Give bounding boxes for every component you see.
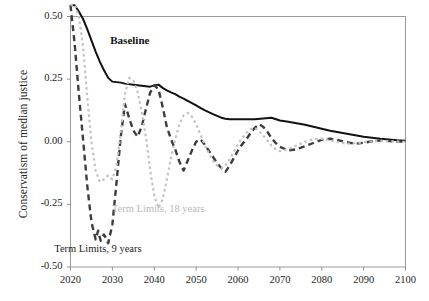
x-axis-tick-marks — [71, 267, 406, 271]
y-tick-label: -0.50 — [23, 261, 63, 272]
y-tick-label: 0.00 — [23, 136, 63, 147]
x-tick-label: 2100 — [381, 275, 429, 286]
y-axis-tick-marks — [67, 17, 71, 268]
annotation-baseline: Baseline — [110, 35, 149, 46]
annotation-term-limits-9: Term Limits, 9 years — [54, 244, 141, 255]
chart-figure: Conservatism of median justice 0.500.250… — [0, 0, 429, 301]
y-tick-label: 0.50 — [23, 11, 63, 22]
y-tick-label: 0.25 — [23, 73, 63, 84]
y-tick-label: -0.25 — [23, 198, 63, 209]
chart-canvas — [0, 0, 429, 301]
annotation-term-limits-18: Term Limits, 18 years — [112, 204, 205, 215]
